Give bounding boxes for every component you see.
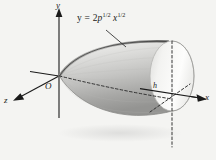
equation-prefix: y = 2 bbox=[77, 13, 98, 23]
origin-label: O bbox=[45, 82, 52, 91]
paraboloid-figure: y x z O h y = 2p1/2 x1/2 bbox=[0, 0, 216, 160]
equation-exponent-p: 1/2 bbox=[103, 11, 111, 18]
z-axis-label: z bbox=[4, 96, 8, 105]
curve-equation-label: y = 2p1/2 x1/2 bbox=[77, 14, 125, 24]
paraboloid-solid bbox=[60, 41, 195, 115]
z-axis-line bbox=[20, 76, 59, 97]
figure-geometry bbox=[0, 0, 216, 160]
equation-exponent-x: 1/2 bbox=[117, 11, 125, 18]
y-axis-label: y bbox=[56, 1, 60, 10]
x-axis-label: x bbox=[205, 93, 209, 102]
ground-shadow bbox=[58, 124, 182, 142]
height-label: h bbox=[153, 82, 157, 90]
z-axis-arrowhead bbox=[13, 93, 24, 101]
x-axis-negative-stub bbox=[30, 72, 59, 77]
